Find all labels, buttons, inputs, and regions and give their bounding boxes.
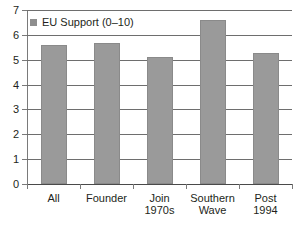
y-axis-tick-label: 3 bbox=[0, 104, 19, 115]
legend: EU Support (0–10) bbox=[30, 17, 134, 28]
y-axis-tick bbox=[22, 109, 27, 110]
x-axis-tick bbox=[27, 184, 28, 189]
y-axis-tick bbox=[22, 35, 27, 36]
x-axis-tick-label: All bbox=[27, 192, 80, 204]
bar-chart: 01234567 AllFounderJoin 1970sSouthern Wa… bbox=[0, 0, 299, 235]
x-axis-tick bbox=[186, 184, 187, 189]
plot-area bbox=[27, 10, 292, 184]
bar bbox=[200, 20, 226, 184]
x-axis-tick bbox=[80, 184, 81, 189]
y-axis-tick-label: 7 bbox=[0, 5, 19, 16]
gridline bbox=[27, 184, 292, 185]
legend-label: EU Support (0–10) bbox=[42, 17, 134, 28]
x-axis-tick-label: Join 1970s bbox=[133, 192, 186, 216]
bar bbox=[253, 53, 279, 184]
y-axis-tick bbox=[22, 159, 27, 160]
bar bbox=[41, 45, 67, 184]
legend-swatch-icon bbox=[30, 19, 37, 26]
x-axis-tick bbox=[133, 184, 134, 189]
bar bbox=[147, 57, 173, 184]
y-axis-tick-label: 2 bbox=[0, 129, 19, 140]
y-axis-tick bbox=[22, 85, 27, 86]
gridline bbox=[27, 10, 292, 11]
y-axis-tick bbox=[22, 134, 27, 135]
bar bbox=[94, 43, 120, 184]
x-axis-tick bbox=[292, 184, 293, 189]
y-axis-tick-label: 0 bbox=[0, 179, 19, 190]
y-axis-tick bbox=[22, 10, 27, 11]
y-axis-tick-label: 4 bbox=[0, 80, 19, 91]
gridline bbox=[27, 35, 292, 36]
x-axis-tick-label: Southern Wave bbox=[186, 192, 239, 216]
y-axis-tick-label: 5 bbox=[0, 55, 19, 66]
y-axis-tick-label: 6 bbox=[0, 30, 19, 41]
y-axis-tick bbox=[22, 60, 27, 61]
x-axis-tick-label: Founder bbox=[80, 192, 133, 204]
x-axis-tick-label: Post 1994 bbox=[239, 192, 292, 216]
x-axis-tick bbox=[239, 184, 240, 189]
y-axis-tick-label: 1 bbox=[0, 154, 19, 165]
